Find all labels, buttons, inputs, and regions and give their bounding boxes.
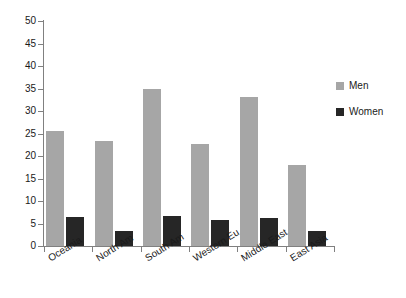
x-axis-tick xyxy=(44,247,45,252)
y-axis-label: 5 xyxy=(2,219,36,229)
y-axis-label: 30 xyxy=(2,106,36,116)
x-axis-tick xyxy=(286,247,287,252)
legend-swatch-icon xyxy=(336,82,344,90)
bar-western-eu-men xyxy=(191,144,209,246)
bar-south-am-men xyxy=(143,89,161,247)
bar-north-am-men xyxy=(95,141,113,246)
y-axis-label: 40 xyxy=(2,61,36,71)
legend-item-men[interactable]: Men xyxy=(336,80,383,92)
bar-chart: 50454035302520151050 OceaniaNorth AmSout… xyxy=(0,0,406,298)
y-axis-label: 0 xyxy=(2,241,36,251)
y-axis-label: 35 xyxy=(2,84,36,94)
y-axis-label: 15 xyxy=(2,174,36,184)
plot-area xyxy=(44,21,334,246)
y-axis-label: 10 xyxy=(2,196,36,206)
legend-label: Men xyxy=(349,81,368,91)
bar-middle-east-men xyxy=(240,97,258,246)
legend-swatch-icon xyxy=(336,108,344,116)
bar-oceania-men xyxy=(46,131,64,246)
x-axis-tick xyxy=(92,247,93,252)
y-axis-label: 45 xyxy=(2,39,36,49)
bar-east-asia-men xyxy=(288,165,306,246)
legend-label: Women xyxy=(349,107,383,117)
y-axis-label: 25 xyxy=(2,129,36,139)
x-axis-tick xyxy=(189,247,190,252)
x-axis-tick xyxy=(334,247,335,252)
legend-item-women[interactable]: Women xyxy=(336,106,383,118)
x-axis-tick xyxy=(237,247,238,252)
x-axis-tick xyxy=(141,247,142,252)
chart-legend: MenWomen xyxy=(336,80,383,132)
y-axis-label: 20 xyxy=(2,151,36,161)
y-axis-label: 50 xyxy=(2,16,36,26)
